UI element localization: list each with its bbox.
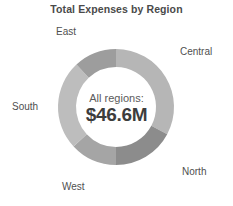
- slice-label-west: West: [62, 181, 85, 192]
- slice-label-south: South: [12, 101, 38, 112]
- donut-chart: All regions: $46.6M East Central South N…: [0, 0, 233, 206]
- chart-page: Total Expenses by Region All regions: $4…: [0, 0, 233, 206]
- donut-slice-north[interactable]: [116, 126, 167, 165]
- slice-label-central: Central: [180, 46, 212, 57]
- slice-label-east: East: [56, 26, 76, 37]
- slice-label-north: North: [182, 166, 206, 177]
